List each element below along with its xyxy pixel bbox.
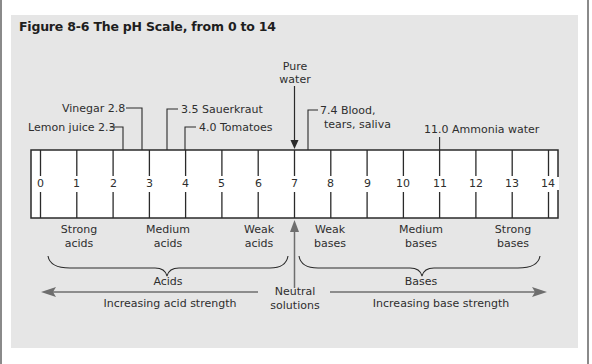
callout-pure-water-line1: Pure bbox=[277, 60, 313, 73]
label-medium-acids-2: acids bbox=[145, 237, 191, 250]
label-strong-acids-2: acids bbox=[56, 237, 102, 250]
tick-label-5: 5 bbox=[214, 177, 229, 190]
neutral-label-line2: solutions bbox=[266, 299, 324, 312]
tick-label-4: 4 bbox=[178, 177, 193, 190]
neutral-arrow bbox=[290, 220, 299, 288]
callout-blood-line1: 7.4 Blood, bbox=[320, 104, 376, 117]
tick-label-11: 11 bbox=[429, 177, 451, 190]
tick-label-8: 8 bbox=[323, 177, 338, 190]
base-strength-caption: Increasing base strength bbox=[356, 297, 526, 310]
tick-label-2: 2 bbox=[106, 177, 121, 190]
label-strong-acids-1: Strong bbox=[56, 223, 102, 236]
tick-label-12: 12 bbox=[465, 177, 487, 190]
label-weak-bases-2: bases bbox=[307, 237, 353, 250]
bases-brace bbox=[299, 256, 540, 276]
callout-pure-water-line2: water bbox=[277, 73, 313, 86]
callout-vinegar: Vinegar 2.8 bbox=[62, 102, 125, 115]
tick-label-0: 0 bbox=[33, 177, 48, 190]
tick-label-14: 14 bbox=[537, 177, 559, 190]
label-strong-bases-2: bases bbox=[490, 237, 536, 250]
tick-label-10: 10 bbox=[392, 177, 414, 190]
label-weak-acids-2: acids bbox=[236, 237, 282, 250]
label-medium-acids-1: Medium bbox=[145, 223, 191, 236]
callout-sauerkraut: 3.5 Sauerkraut bbox=[181, 103, 263, 116]
label-weak-bases-1: Weak bbox=[307, 223, 353, 236]
label-medium-bases-2: bases bbox=[398, 237, 444, 250]
tick-label-6: 6 bbox=[251, 177, 266, 190]
tick-label-9: 9 bbox=[360, 177, 375, 190]
tick-label-1: 1 bbox=[69, 177, 84, 190]
callout-blood-line2: tears, saliva bbox=[324, 118, 391, 131]
callout-lemon-juice: Lemon juice 2.3 bbox=[28, 121, 116, 134]
group-label-bases: Bases bbox=[398, 275, 444, 288]
tick-label-7: 7 bbox=[287, 177, 302, 190]
tick-label-13: 13 bbox=[501, 177, 523, 190]
base-strength-arrow bbox=[330, 287, 547, 297]
group-label-acids: Acids bbox=[145, 275, 191, 288]
pure-water-arrow bbox=[291, 86, 299, 149]
acid-strength-arrow bbox=[41, 287, 258, 297]
label-strong-bases-1: Strong bbox=[490, 223, 536, 236]
acid-strength-caption: Increasing acid strength bbox=[90, 297, 250, 310]
label-medium-bases-1: Medium bbox=[398, 223, 444, 236]
label-weak-acids-1: Weak bbox=[236, 223, 282, 236]
neutral-label-line1: Neutral bbox=[270, 285, 320, 298]
tick-label-3: 3 bbox=[142, 177, 157, 190]
callout-ammonia: 11.0 Ammonia water bbox=[424, 123, 539, 136]
acids-brace bbox=[48, 256, 288, 276]
callout-tomatoes: 4.0 Tomatoes bbox=[199, 121, 273, 134]
